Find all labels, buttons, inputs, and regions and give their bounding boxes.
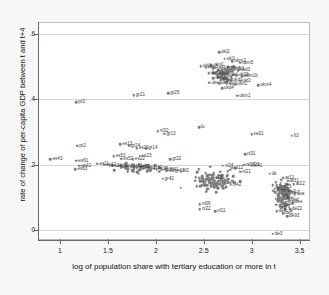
data-point-label: at22 <box>296 182 305 187</box>
data-point <box>292 183 295 186</box>
data-point <box>143 166 146 169</box>
data-point <box>223 57 226 60</box>
data-point <box>225 83 228 86</box>
data-point <box>224 186 227 189</box>
data-point <box>257 84 260 87</box>
data-point <box>239 170 242 173</box>
data-point-label: es63 <box>77 167 87 172</box>
data-point <box>112 155 115 158</box>
data-point <box>161 178 164 181</box>
data-point <box>219 170 222 173</box>
data-point-label: nl11 <box>217 209 225 214</box>
data-point <box>250 133 253 136</box>
data-point <box>236 94 239 97</box>
data-point-label: nl41 <box>254 163 263 168</box>
data-point <box>49 158 52 161</box>
data-point <box>222 67 225 70</box>
data-point <box>279 205 282 208</box>
data-point <box>279 189 282 192</box>
data-point <box>285 191 288 194</box>
y-axis-tick-label: 0 <box>19 226 35 233</box>
data-point-label: de93 <box>289 214 299 219</box>
data-point <box>169 158 172 161</box>
data-point <box>96 162 99 165</box>
data-point <box>239 61 242 64</box>
data-point <box>275 210 278 213</box>
data-point <box>210 185 213 188</box>
data-point <box>282 176 285 179</box>
data-point <box>269 172 272 175</box>
x-axis-label: log of population share with tertiary ed… <box>38 262 310 271</box>
data-point <box>161 168 164 171</box>
data-point <box>199 203 202 206</box>
x-axis-tick-label: 2 <box>144 247 168 254</box>
data-point <box>204 66 207 69</box>
data-point <box>199 208 202 211</box>
data-point <box>221 185 224 188</box>
data-point <box>207 178 210 181</box>
data-point <box>222 165 225 168</box>
y-gridline <box>39 230 309 231</box>
data-point <box>120 157 123 160</box>
data-point <box>166 169 169 172</box>
data-point <box>76 144 79 147</box>
data-point <box>130 165 133 168</box>
data-point <box>131 169 134 172</box>
data-point <box>207 72 210 75</box>
data-point <box>273 187 276 190</box>
data-point <box>226 174 229 177</box>
data-point <box>114 165 117 168</box>
data-point <box>283 197 286 200</box>
data-point <box>156 130 159 133</box>
data-point-label: de6 <box>279 209 287 214</box>
data-point <box>250 164 253 167</box>
data-point-label: gr21 <box>136 93 145 98</box>
data-point <box>145 147 148 150</box>
data-point-label: ukl2 <box>221 50 229 55</box>
data-point <box>205 175 208 178</box>
data-point <box>274 181 277 184</box>
data-point <box>196 171 199 174</box>
data-point <box>208 81 211 84</box>
data-point <box>244 153 247 156</box>
data-point <box>218 82 221 85</box>
x-axis-tick-label: 2.5 <box>192 247 216 254</box>
data-point-label: de3 <box>275 231 283 236</box>
data-point <box>227 170 230 173</box>
data-point <box>289 192 292 195</box>
data-point-label: nl22 <box>202 207 211 212</box>
data-point <box>293 193 296 196</box>
scatter-plot-figure: 0.2.4.611.522.533.5ukl2ukl1ukm2ukm5ukn0u… <box>0 0 329 295</box>
data-point-label: ukn1 <box>237 82 247 87</box>
data-point <box>274 191 277 194</box>
data-point <box>200 65 203 68</box>
data-point-label: ukm5 <box>242 60 253 65</box>
data-point <box>217 187 220 190</box>
data-point-label: ukm1 <box>239 93 250 98</box>
data-point-label: es43 <box>52 156 62 161</box>
x-axis-line <box>38 240 310 241</box>
data-point <box>287 179 290 182</box>
data-point <box>194 176 197 179</box>
data-point-label: gr13 <box>166 131 175 136</box>
data-point-label: ukm4 <box>260 83 271 88</box>
data-point <box>214 210 217 213</box>
data-point-label: dk <box>272 171 277 176</box>
data-point <box>202 180 205 183</box>
data-point <box>212 77 215 80</box>
data-point <box>74 168 77 171</box>
data-point <box>243 163 246 166</box>
data-point-label: pt2 <box>79 143 85 148</box>
data-point-label: dea <box>297 192 305 197</box>
data-point <box>194 180 197 183</box>
data-point <box>209 182 212 185</box>
data-point-label: lu <box>201 125 205 130</box>
data-point <box>195 185 198 188</box>
data-point <box>291 135 294 138</box>
data-point-label: ukd4 <box>224 86 234 91</box>
data-point-label: nl12 <box>234 165 243 170</box>
data-point <box>221 87 224 90</box>
data-point <box>109 164 112 167</box>
data-point <box>231 60 234 63</box>
data-point-label: dee <box>295 199 303 204</box>
